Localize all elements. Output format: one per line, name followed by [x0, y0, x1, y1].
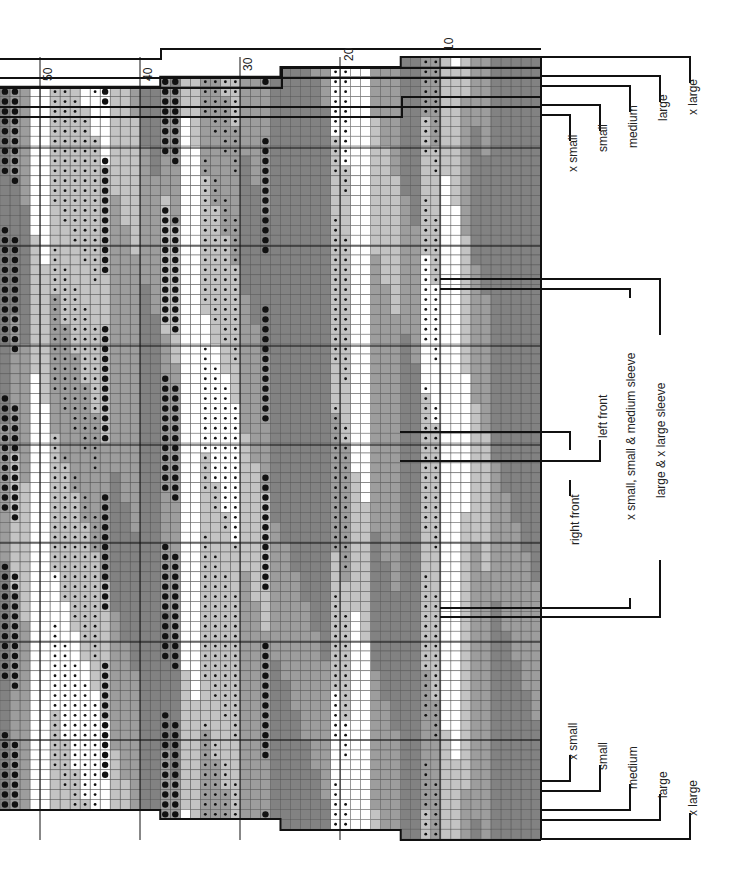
piece-label: right front	[568, 494, 582, 545]
size-label-bottom: small	[596, 742, 610, 770]
size-label-bottom: large	[656, 771, 670, 798]
size-label-top: small	[596, 124, 610, 152]
size-label-bottom: x small	[566, 723, 580, 760]
column-number: 50	[41, 67, 55, 80]
size-label-bottom: medium	[626, 746, 640, 789]
piece-label: left front	[596, 395, 610, 438]
size-label-bottom: x large	[686, 780, 700, 816]
chart-cells	[0, 57, 541, 839]
column-number: 20	[342, 48, 356, 61]
size-label-top: x large	[686, 79, 700, 115]
column-number: 10	[442, 38, 456, 51]
size-label-top: x small	[566, 135, 580, 172]
column-number: 30	[241, 57, 255, 70]
piece-label: large & x large sleeve	[654, 383, 668, 498]
column-number: 40	[141, 67, 155, 80]
size-label-top: large	[656, 94, 670, 121]
piece-label: x small, small & medium sleeve	[624, 353, 638, 520]
size-label-top: medium	[626, 105, 640, 148]
